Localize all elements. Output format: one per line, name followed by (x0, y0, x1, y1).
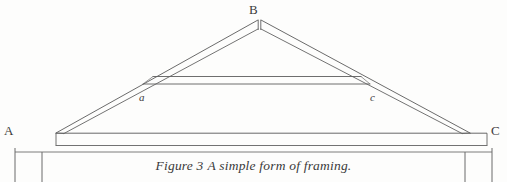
collar-beam-left-end-line (143, 77, 153, 85)
figure-caption-text: A simple form of framing. (208, 158, 352, 173)
collar-beam-group (143, 77, 370, 85)
collar-joint-label-a: a (139, 92, 145, 103)
figure-caption: Figure 3A simple form of framing. (0, 158, 507, 174)
support-label-c: C (491, 124, 500, 137)
support-label-a: A (4, 124, 13, 137)
collar-joint-label-c: c (370, 92, 375, 103)
right-rafter-inner-line (261, 29, 462, 134)
apex-label-b: B (249, 3, 258, 16)
figure-container: B A C a c Figure 3A simple form of frami… (0, 0, 507, 182)
truss-diagram (0, 0, 507, 182)
left-rafter-inner-line (64, 29, 258, 134)
tie-beam-group (56, 133, 487, 145)
king-post-stub-group (258, 20, 261, 30)
figure-number: Figure 3 (156, 158, 208, 173)
